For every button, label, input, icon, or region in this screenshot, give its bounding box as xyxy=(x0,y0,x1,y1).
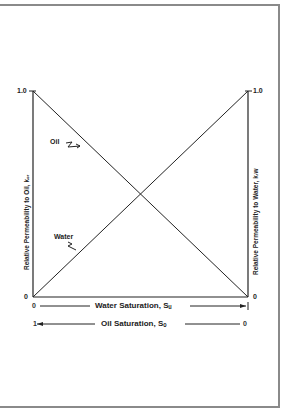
right-y-axis-title: Relative Permeability to Water, kᵣw xyxy=(252,168,259,275)
left-y-tick-0: 0 xyxy=(24,293,28,301)
left-y-tick-1: 1.0 xyxy=(17,87,27,95)
water-pointer-icon xyxy=(68,242,76,250)
right-y-tick-0: 0 xyxy=(253,293,257,301)
so-arrowhead-icon xyxy=(37,322,43,326)
water-series-label: Water xyxy=(54,233,73,240)
so-start-label: 1 xyxy=(33,320,37,327)
water-saturation-title: Water Saturation, Sᵤ xyxy=(92,301,174,310)
oil-series-label: Oil xyxy=(50,138,59,145)
so-end-label: 0 xyxy=(243,320,247,327)
relative-permeability-chart xyxy=(0,0,288,415)
left-y-axis-title: Relative Permeability to Oil, kₒᵣ xyxy=(23,175,30,270)
sw-start-label: 0 xyxy=(32,302,36,309)
right-y-tick-1: 1.0 xyxy=(253,87,263,95)
sw-arrowhead-icon xyxy=(240,304,246,308)
oil-saturation-title: Oil Saturation, Sₒ xyxy=(98,319,170,328)
